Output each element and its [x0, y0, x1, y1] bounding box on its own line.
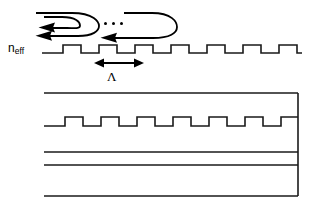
- reflection-arrow-outer-left-head: [36, 31, 53, 41]
- neff-subscript: eff: [15, 46, 25, 56]
- period-dimension-arrow-head-left: [94, 59, 104, 68]
- waveguide-cross-section-group: [44, 93, 298, 196]
- neff-base: n: [8, 41, 15, 55]
- reflection-arrow-inner-left-head: [39, 23, 56, 33]
- reflection-arrow-right-path: [115, 13, 177, 38]
- neff-axis-label: neff: [8, 42, 24, 56]
- reflection-arrow-right-head: [101, 33, 118, 43]
- period-label: Λ: [107, 70, 116, 83]
- effective-index-waveform-group: [42, 45, 302, 53]
- grating-waveguide-figure: neff Λ: [0, 0, 318, 203]
- reflection-arrows-group: [36, 13, 178, 43]
- period-dimension-arrow-group: [94, 59, 144, 68]
- core-grating-square-wave: [44, 117, 298, 126]
- effective-index-square-wave: [42, 45, 302, 53]
- figure-canvas: [0, 0, 318, 203]
- period-dimension-arrow-head-right: [134, 59, 144, 68]
